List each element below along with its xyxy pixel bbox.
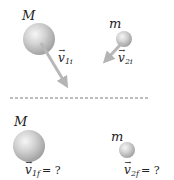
- before-body-small: m v → 2i: [107, 16, 133, 66]
- mass-label-large: M: [21, 8, 36, 23]
- sphere-small: [119, 142, 135, 158]
- velocity-value: = ?: [141, 164, 160, 177]
- velocity-value: = ?: [42, 164, 61, 177]
- mass-label-small: m: [109, 16, 121, 31]
- vector-arrow-icon: →: [119, 46, 126, 55]
- velocity-subscript: 2f: [130, 169, 141, 178]
- velocity-label-1i: v → 1i: [58, 46, 73, 66]
- mass-label-large: M: [13, 114, 28, 129]
- collision-diagram: M v → 1i m v → 2i M v → 1f = ? m: [0, 0, 174, 180]
- velocity-label-1f: v → 1f = ?: [25, 158, 61, 178]
- before-body-large: M v → 1i: [21, 8, 73, 83]
- vector-arrow-icon: →: [125, 158, 132, 167]
- velocity-subscript: 1i: [65, 57, 73, 66]
- sphere-large: [23, 23, 55, 55]
- vector-arrow-icon: →: [59, 46, 66, 55]
- vector-arrow-icon: →: [26, 158, 33, 167]
- velocity-subscript: 2i: [124, 57, 133, 66]
- mass-label-small: m: [111, 129, 123, 144]
- velocity-label-2i: v → 2i: [118, 46, 133, 66]
- after-body-large: M v → 1f = ?: [13, 114, 61, 178]
- sphere-small: [116, 31, 132, 47]
- after-body-small: m v → 2f = ?: [111, 129, 160, 178]
- velocity-label-2f: v → 2f = ?: [124, 158, 160, 178]
- velocity-subscript: 1f: [32, 169, 42, 178]
